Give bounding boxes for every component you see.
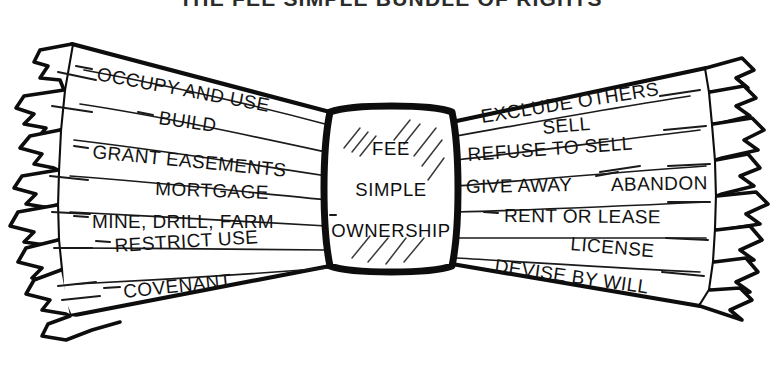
lead-dash: [96, 241, 110, 242]
right-label-rent-or-lease: RENT OR LEASE: [504, 205, 661, 227]
right-label-abandon: ABANDON: [611, 172, 708, 195]
right-label-give-away: GIVE AWAY: [466, 174, 573, 197]
frayed-strand: [20, 130, 60, 170]
frayed-strand: [42, 316, 120, 340]
knot-line-1: FEE: [372, 138, 410, 159]
knot-line-3: OWNERSHIP: [331, 220, 451, 241]
bundle-of-rights-figure: THE FEE SIMPLE BUNDLE OF RIGHTS: [0, 0, 782, 373]
bundle-illustration: FEE SIMPLE OWNERSHIP OCCUPY AND USE BUIL…: [0, 0, 782, 373]
frayed-strand: [716, 154, 760, 196]
frayed-strand: [716, 192, 768, 230]
frayed-strand: [10, 205, 58, 246]
lead-dash: [104, 287, 120, 288]
lead-dash: [74, 216, 88, 217]
center-knot: FEE SIMPLE OWNERSHIP: [324, 106, 458, 272]
right-label-sell: SELL: [542, 113, 592, 138]
figure-title: THE FEE SIMPLE BUNDLE OF RIGHTS: [0, 0, 782, 11]
frayed-strand: [713, 118, 764, 160]
knot-line-2: SIMPLE: [355, 179, 426, 200]
lead-dash: [484, 212, 498, 213]
right-label-mortgage: MORTGAGE: [155, 178, 269, 203]
